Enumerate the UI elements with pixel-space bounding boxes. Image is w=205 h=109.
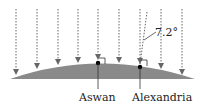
alexandria-label: Alexandria xyxy=(131,91,193,104)
right-angle-mark-alexandria xyxy=(141,60,147,66)
eratosthenes-diagram: 7.2° Aswan Alexandria xyxy=(0,0,205,109)
angle-label: 7.2° xyxy=(155,26,178,39)
alexandria-vertical xyxy=(140,12,147,64)
aswan-label: Aswan xyxy=(78,91,116,104)
earth-surface xyxy=(10,64,195,80)
